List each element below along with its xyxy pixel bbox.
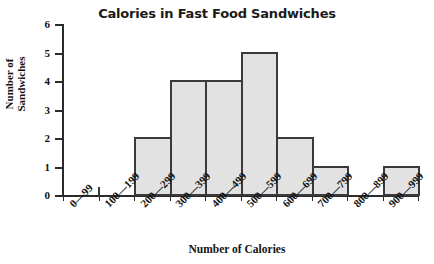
x-axis-tick-2 (134, 196, 135, 201)
y-axis-tick-label-5: 5 (32, 48, 50, 59)
x-axis-tick-3 (170, 196, 171, 201)
histogram-figure: Calories in Fast Food Sandwiches Number … (0, 0, 434, 264)
y-axis-title-line-2: Sandwiches (15, 46, 27, 122)
y-axis-title-line-1: Number of (3, 46, 15, 122)
y-axis-tick-label-0: 0 (32, 190, 50, 201)
y-axis-title: Number of Sandwiches (3, 46, 27, 122)
x-axis-tick-8 (347, 196, 348, 201)
y-axis-tick-label-2: 2 (32, 133, 50, 144)
x-axis-tick-0 (63, 196, 64, 201)
x-axis-tick-4 (205, 196, 206, 201)
x-axis-title: Number of Calories (0, 243, 434, 255)
y-axis-tick-label-1: 1 (32, 162, 50, 173)
x-axis-tick-5 (241, 196, 242, 201)
y-axis-tick-label-6: 6 (32, 19, 50, 30)
x-axis-tick-7 (312, 196, 313, 201)
y-axis-tick-label-3: 3 (32, 105, 50, 116)
y-axis-tick-label-4: 4 (32, 76, 50, 87)
chart-title: Calories in Fast Food Sandwiches (0, 6, 434, 21)
x-axis-tick-1 (99, 196, 100, 201)
x-axis-tick-9 (383, 196, 384, 201)
x-axis-tick-6 (276, 196, 277, 201)
x-axis-tick-10 (418, 196, 419, 201)
